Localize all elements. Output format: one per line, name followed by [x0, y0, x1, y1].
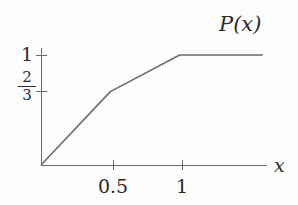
fraction-denominator: 3: [17, 87, 37, 103]
x-axis-label-one: 1: [170, 177, 194, 196]
plot-figure: 1 2 3 0.5 1 x P(x): [0, 0, 298, 205]
x-axis-label-half: 0.5: [90, 177, 136, 196]
y-axis-label-two-thirds: 2 3: [17, 70, 37, 103]
y-axis-label-one: 1: [20, 45, 34, 64]
fraction-numerator: 2: [17, 70, 37, 86]
curve-title-label: P(x): [219, 14, 261, 35]
x-axis-title: x: [274, 156, 285, 175]
